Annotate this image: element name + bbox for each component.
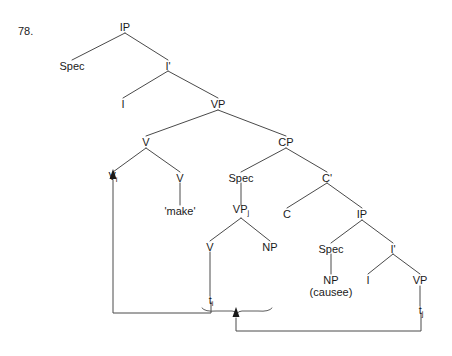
node-ip-lower: IP [357,208,367,220]
branch-vp-v [146,110,218,136]
node-c-head: C [283,208,291,220]
node-np-causee: NP(causee) [310,274,353,298]
node-vp-moved-label: VP [233,203,248,215]
example-number: 78. [18,25,33,37]
branch-ip-spec [72,33,125,60]
branch-iplower-spec [331,220,362,243]
movement-arrow-1-path [113,180,211,313]
branch-ibarlower-vp [393,254,420,274]
branch-cbar-ip [327,183,362,208]
node-trace-i: ti [209,294,214,310]
node-vp-moved-subscript: j [248,208,250,217]
node-np-causee-gloss: (causee) [310,286,353,298]
branch-v-vmake [146,148,180,172]
node-vp-moved: VPj [233,203,249,219]
node-vp-lower: VP [413,274,428,286]
node-v-head-subscript: i [116,175,118,184]
node-v-head: Vi [108,170,117,186]
node-make-word: 'make' [164,205,195,217]
node-spec-ip-lower: Spec [318,243,343,255]
node-v-mid: V [142,136,149,148]
branch-iplower-ibar [362,220,393,243]
tree-diagram-canvas: 78. IP Spec I' I VP V CP Vi V 'make' Spe… [0,0,452,356]
movement-arrowheads [110,169,240,317]
node-trace-j: tj [419,304,424,320]
node-np-causee-label: NP [323,274,338,286]
node-spec-top: Spec [59,60,84,72]
branch-ibar-i [123,71,168,98]
branch-cbar-c [287,183,327,208]
node-v-make: V [176,172,183,184]
tree-branch-lines [0,0,452,356]
node-vp-top: VP [211,98,226,110]
node-i-top: I [121,98,124,110]
branch-ibar-vp [168,71,218,98]
node-trace-j-subscript: j [422,309,424,318]
branch-ibarlower-i [368,254,393,274]
node-ibar-top: I' [165,60,170,72]
branch-vpj-v [210,218,241,241]
node-ibar-lower: I' [390,243,395,255]
node-cbar: C' [322,172,332,184]
node-i-lower: I [366,274,369,286]
branch-cp-cbar [286,148,327,172]
node-cp: CP [278,136,293,148]
movement-arrow-2-path [236,313,421,331]
node-spec-cp: Spec [228,172,253,184]
branch-vpj-np [241,218,270,241]
node-trace-i-subscript: i [212,299,214,308]
branch-vp-cp [218,110,286,136]
branch-ip-ibar [125,33,168,60]
node-ip-root: IP [120,21,130,33]
node-v-lower: V [206,241,213,253]
node-np-object: NP [262,241,277,253]
branch-v-vhead [113,148,146,172]
branch-cp-spec [241,148,286,172]
